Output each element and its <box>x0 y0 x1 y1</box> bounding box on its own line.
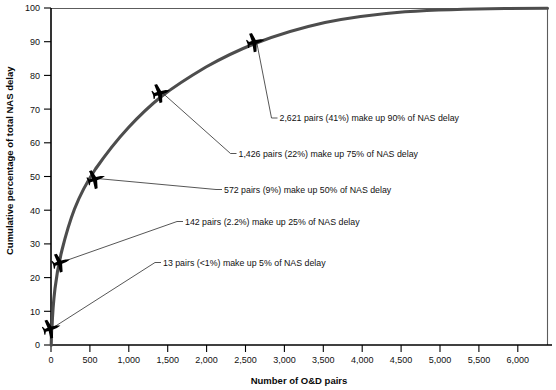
x-tick-label: 2,500 <box>234 355 257 365</box>
y-tick-label: 10 <box>30 307 40 317</box>
y-tick-label: 40 <box>30 206 40 216</box>
chart-container: 0 10 20 30 40 50 60 70 80 90 100 0 500 1… <box>0 0 556 390</box>
x-tick-label: 3,500 <box>312 355 335 365</box>
x-tick-label: 4,500 <box>390 355 413 365</box>
annotation-572: 572 pairs (9%) make up 50% of NAS delay <box>224 185 392 195</box>
y-tick-label: 100 <box>25 3 40 13</box>
y-tick-label: 50 <box>30 172 40 182</box>
x-tick-label: 500 <box>82 355 97 365</box>
annotation-142: 142 pairs (2.2%) make up 25% of NAS dela… <box>185 217 360 227</box>
x-tick-label: 4,000 <box>351 355 374 365</box>
x-tick-label: 6,000 <box>507 355 530 365</box>
y-axis-title: Cumulative percentage of total NAS delay <box>4 66 15 255</box>
x-tick-label: 1,000 <box>118 355 141 365</box>
annotation-1426: 1,426 pairs (22%) make up 75% of NAS del… <box>239 149 419 159</box>
x-tick-label: 1,500 <box>156 355 179 365</box>
annotation-2621: 2,621 pairs (41%) make up 90% of NAS del… <box>280 113 460 123</box>
cumulative-nas-delay-chart: 0 10 20 30 40 50 60 70 80 90 100 0 500 1… <box>0 0 556 390</box>
y-tick-label: 80 <box>30 71 40 81</box>
x-tick-label: 0 <box>48 355 53 365</box>
y-tick-label: 90 <box>30 37 40 47</box>
x-tick-label: 3,000 <box>273 355 296 365</box>
x-tick-label: 5,000 <box>429 355 452 365</box>
y-tick-label: 30 <box>30 239 40 249</box>
y-tick-label: 70 <box>30 105 40 115</box>
x-tick-label: 5,500 <box>468 355 491 365</box>
annotation-13: 13 pairs (<1%) make up 5% of NAS delay <box>163 258 326 268</box>
x-tick-label: 2,000 <box>195 355 218 365</box>
x-axis-title: Number of O&D pairs <box>251 375 348 386</box>
y-tick-label: 60 <box>30 138 40 148</box>
y-tick-label: 0 <box>35 340 40 350</box>
chart-background <box>0 0 556 390</box>
y-tick-label: 20 <box>30 273 40 283</box>
